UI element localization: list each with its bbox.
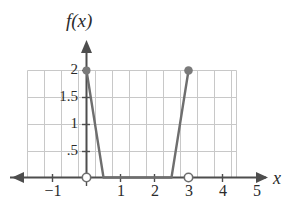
x-tick-label-2: 2 bbox=[138, 182, 172, 200]
y-axis-title: f(x) bbox=[66, 10, 92, 32]
x-tick-label-neg-1: −1 bbox=[36, 182, 70, 200]
x-tick-label-5: 5 bbox=[240, 182, 274, 200]
grid-horizontal-lines bbox=[28, 71, 237, 152]
y-tick-label-2: 2 bbox=[46, 61, 78, 78]
y-axis bbox=[81, 40, 92, 182]
x-tick-label-1: 1 bbox=[104, 182, 138, 200]
x-tick-label-4: 4 bbox=[206, 182, 240, 200]
function-graph-figure: f(x) x 2 1.5 1 .5 −1 1 2 3 4 5 bbox=[0, 0, 296, 213]
y-tick-label-1: 1 bbox=[46, 115, 78, 132]
y-tick-label-1-5: 1.5 bbox=[36, 88, 78, 105]
x-axis-title: x bbox=[273, 168, 281, 189]
y-tick-label-0-5: .5 bbox=[44, 142, 78, 159]
x-tick-label-3: 3 bbox=[172, 182, 206, 200]
